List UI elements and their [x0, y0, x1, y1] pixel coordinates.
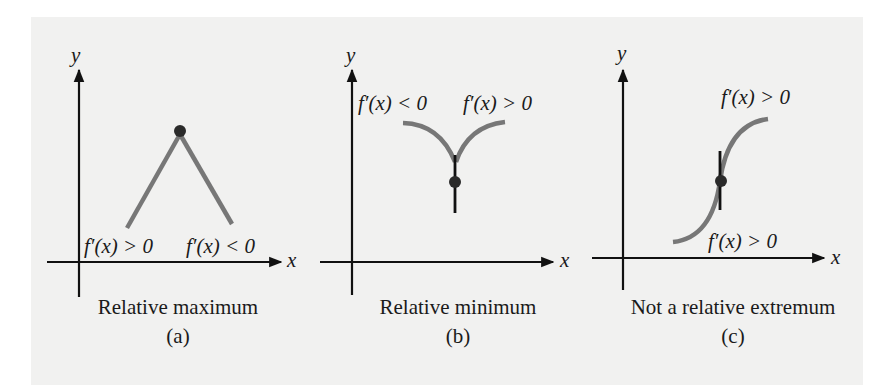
y-axis-label: y — [615, 41, 627, 65]
x-axis-label: x — [286, 248, 297, 272]
decreasing-curve — [403, 123, 455, 162]
x-axis-label: x — [830, 245, 841, 269]
critical-point — [715, 175, 727, 187]
panel-a: y x f′(x) > 0 f′(x) < 0 Relative maximum… — [47, 43, 297, 348]
derivative-negative-label: f′(x) < 0 — [186, 234, 255, 258]
derivative-positive-top-label: f′(x) > 0 — [721, 85, 790, 109]
y-axis-label: y — [69, 43, 81, 67]
x-axis-label: x — [559, 248, 570, 272]
sub-label: (b) — [446, 324, 471, 348]
maximum-point — [174, 125, 186, 137]
derivative-positive-bottom-label: f′(x) > 0 — [708, 229, 777, 253]
sub-label: (c) — [721, 324, 744, 348]
derivative-positive-label: f′(x) > 0 — [463, 91, 532, 115]
caption: Relative minimum — [380, 295, 537, 319]
caption: Relative maximum — [98, 295, 258, 319]
derivative-positive-label: f′(x) > 0 — [84, 234, 153, 258]
decreasing-segment — [181, 136, 232, 224]
increasing-segment — [127, 136, 179, 228]
caption: Not a relative extremum — [631, 295, 836, 319]
derivative-negative-label: f′(x) < 0 — [358, 91, 427, 115]
panel-b: y x f′(x) < 0 f′(x) > 0 Relative minimum… — [320, 43, 570, 348]
panel-c: y x f′(x) > 0 f′(x) > 0 Not a relative e… — [592, 41, 841, 348]
extrema-figure: y x f′(x) > 0 f′(x) < 0 Relative maximum… — [0, 0, 887, 388]
minimum-point — [449, 176, 461, 188]
increasing-curve — [456, 122, 505, 162]
sub-label: (a) — [166, 324, 189, 348]
y-axis-label: y — [344, 43, 356, 67]
